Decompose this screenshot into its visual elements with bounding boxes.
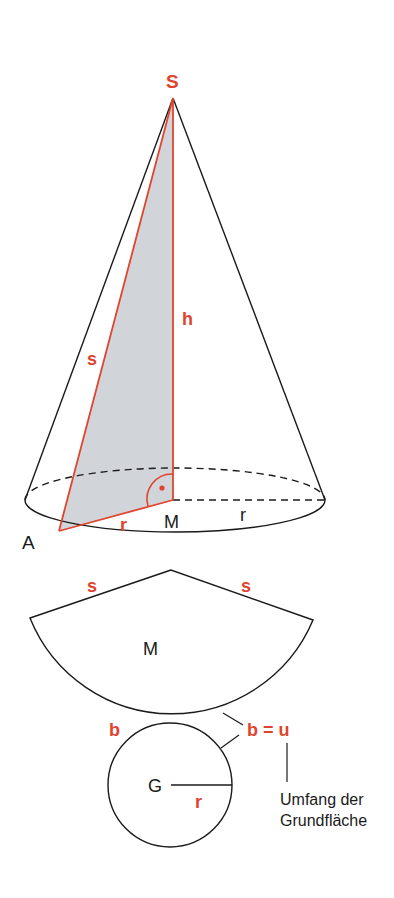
sector-label: M bbox=[143, 639, 158, 659]
annotation-line-2: Grundfläche bbox=[280, 812, 367, 829]
center-label: M bbox=[164, 512, 179, 532]
sector-slant-left-label: s bbox=[87, 576, 97, 596]
arc-label: b bbox=[109, 720, 120, 740]
annotation-line-1: Umfang der bbox=[280, 791, 364, 808]
apex-label: S bbox=[166, 71, 179, 92]
pointer-circle bbox=[221, 735, 239, 748]
pointer-arc bbox=[223, 713, 243, 725]
height-label: h bbox=[182, 309, 193, 329]
radius-label-black: r bbox=[240, 505, 246, 525]
point-a-label: A bbox=[22, 532, 35, 553]
base-center-label: G bbox=[148, 776, 162, 796]
slant-label: s bbox=[87, 349, 97, 369]
b-equals-u-label: b = u bbox=[247, 720, 290, 740]
right-angle-dot bbox=[159, 485, 164, 490]
base-radius-label: r bbox=[195, 792, 202, 812]
lateral-surface-sector bbox=[30, 570, 313, 714]
cone-right-edge bbox=[173, 98, 325, 500]
sector-slant-right-label: s bbox=[241, 576, 251, 596]
radius-label-red: r bbox=[120, 515, 127, 535]
cone-diagram: S s h r M r A s s M b G r b = u Umfang d… bbox=[0, 0, 394, 898]
